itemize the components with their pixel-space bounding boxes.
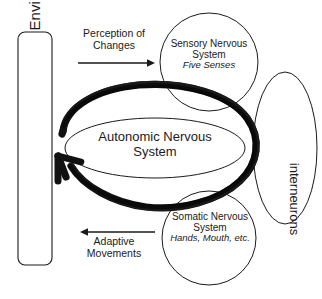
- interneurons-ellipse-label: interneurons: [285, 139, 303, 259]
- environment-box-text: Environmental Changes: [27, 0, 44, 31]
- diagram-canvas: Environmental Changes Perception of Chan…: [0, 0, 322, 299]
- environment-box-label: Environmental Changes: [18, 0, 52, 66]
- perception-label-line1: Perception of: [83, 27, 145, 39]
- somatic-circle-label: Somatic Nervous System Hands, Mouth, etc…: [156, 211, 264, 244]
- interneurons-text: interneurons: [287, 163, 302, 235]
- adaptive-label-line2: Movements: [87, 247, 141, 259]
- perception-label-line2: Changes: [93, 39, 135, 51]
- sensory-label-line1: Sensory Nervous: [171, 38, 248, 49]
- sensory-circle-label: Sensory Nervous System Five Senses: [158, 38, 260, 71]
- sensory-sublabel: Five Senses: [158, 60, 260, 71]
- perception-arrow: [78, 59, 155, 67]
- autonomic-label-line1: Autonomic Nervous: [98, 129, 211, 144]
- environment-box-shape: [18, 32, 52, 265]
- adaptive-label-line1: Adaptive: [94, 235, 135, 247]
- somatic-sublabel: Hands, Mouth, etc.: [156, 233, 264, 244]
- adaptive-arrow-label: Adaptive Movements: [72, 236, 156, 260]
- somatic-label-line1: Somatic Nervous: [172, 211, 248, 222]
- autonomic-ellipse-label: Autonomic Nervous System: [86, 130, 224, 159]
- autonomic-label-line2: System: [133, 144, 176, 159]
- perception-arrow-label: Perception of Changes: [72, 28, 156, 52]
